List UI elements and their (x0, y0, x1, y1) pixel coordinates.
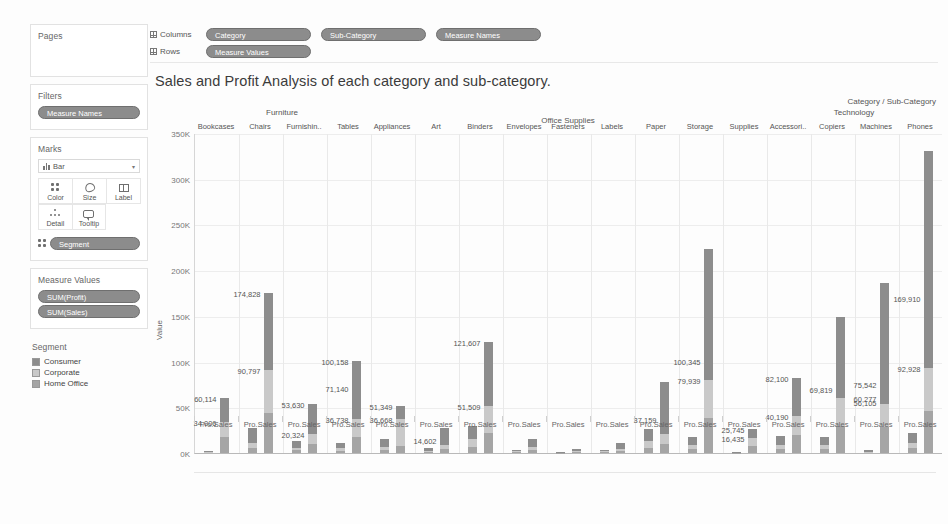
bar-segment-corporate[interactable] (660, 434, 669, 444)
bar-segment-consumer[interactable] (424, 448, 433, 450)
bar-segment-corporate[interactable] (204, 452, 213, 453)
bar-envelopes-sales[interactable] (528, 439, 537, 453)
bar-segment-consumer[interactable] (512, 450, 521, 452)
bar-segment-consumer[interactable] (776, 436, 785, 445)
bar-segment-consumer[interactable] (440, 428, 449, 444)
bar-binders-sales[interactable] (484, 342, 493, 453)
bar-segment-consumer[interactable] (484, 342, 493, 406)
bar-segment-corporate[interactable] (924, 368, 933, 411)
bar-segment-consumer[interactable] (336, 443, 345, 448)
bar-fasteners-sales[interactable] (572, 449, 581, 453)
bar-segment-consumer[interactable] (864, 450, 873, 451)
bar-segment-consumer[interactable] (204, 451, 213, 452)
bar-segment-home[interactable] (776, 449, 785, 453)
bar-chairs-profit[interactable] (248, 428, 257, 453)
bar-segment-consumer[interactable] (644, 429, 653, 441)
bar-fasteners-profit[interactable] (556, 452, 565, 453)
bar-segment-consumer[interactable] (880, 283, 889, 403)
bar-segment-consumer[interactable] (572, 449, 581, 451)
bar-segment-home[interactable] (308, 444, 317, 453)
bar-segment-home[interactable] (468, 447, 477, 453)
bar-segment-consumer[interactable] (352, 361, 361, 419)
bar-accessori--profit[interactable] (776, 436, 785, 453)
bar-art-sales[interactable] (440, 428, 449, 453)
row-pill-measure-values[interactable]: Measure Values (206, 45, 311, 58)
bar-accessori--sales[interactable] (792, 378, 801, 453)
bar-segment-corporate[interactable] (308, 434, 317, 443)
bar-segment-consumer[interactable] (220, 398, 229, 422)
filter-pill-measure-names[interactable]: Measure Names (38, 106, 140, 119)
columns-shelf[interactable]: Columns Category Sub-Category Measure Na… (150, 26, 938, 43)
column-pill-sub-category[interactable]: Sub-Category (321, 28, 426, 41)
marks-detail-button[interactable]: Detail (38, 204, 73, 230)
bar-segment-corporate[interactable] (572, 451, 581, 452)
bar-segment-home[interactable] (484, 433, 493, 453)
bar-envelopes-profit[interactable] (512, 450, 521, 453)
bar-segment-corporate[interactable] (600, 451, 609, 452)
column-pill-category[interactable]: Category (206, 28, 311, 41)
bar-segment-home[interactable] (512, 452, 521, 453)
bar-segment-corporate[interactable] (776, 445, 785, 449)
marks-label-button[interactable]: Label (106, 178, 141, 204)
bar-binders-profit[interactable] (468, 426, 477, 453)
bar-machines-profit[interactable] (864, 450, 873, 453)
bar-segment-consumer[interactable] (292, 441, 301, 447)
bar-segment-home[interactable] (792, 435, 801, 453)
bar-segment-consumer[interactable] (836, 317, 845, 398)
bar-segment-corporate[interactable] (264, 370, 273, 413)
bar-segment-home[interactable] (292, 450, 301, 453)
bar-segment-home[interactable] (572, 452, 581, 453)
bar-segment-consumer[interactable] (600, 450, 609, 452)
bar-segment-consumer[interactable] (924, 151, 933, 368)
bar-chairs-sales[interactable] (264, 293, 273, 453)
bar-segment-consumer[interactable] (688, 437, 697, 445)
bar-segment-consumer[interactable] (792, 378, 801, 416)
bar-segment-home[interactable] (220, 437, 229, 453)
bar-segment-corporate[interactable] (908, 443, 917, 448)
bar-segment-home[interactable] (836, 426, 845, 453)
bar-segment-corporate[interactable] (820, 445, 829, 449)
bar-segment-home[interactable] (528, 450, 537, 453)
bar-art-profit[interactable] (424, 448, 433, 453)
bar-segment-home[interactable] (336, 451, 345, 453)
bar-appliances-sales[interactable] (396, 406, 405, 453)
bar-tables-profit[interactable] (336, 443, 345, 453)
bar-tables-sales[interactable] (352, 361, 361, 453)
bar-segment-home[interactable] (688, 449, 697, 453)
bar-segment-consumer[interactable] (704, 249, 713, 380)
legend-item-home-office[interactable]: Home Office (32, 379, 141, 388)
bar-segment-home[interactable] (616, 451, 625, 453)
bar-segment-corporate[interactable] (292, 448, 301, 451)
measure-pill-sum-profit[interactable]: SUM(Profit) (38, 290, 140, 303)
bar-segment-consumer[interactable] (380, 439, 389, 446)
bar-segment-home[interactable] (440, 449, 449, 453)
rows-shelf[interactable]: Rows Measure Values (150, 43, 938, 60)
bar-phones-sales[interactable] (924, 151, 933, 453)
bar-supplies-profit[interactable] (732, 452, 741, 453)
bar-segment-consumer[interactable] (908, 433, 917, 443)
column-pill-measure-names[interactable]: Measure Names (436, 28, 541, 41)
bar-segment-home[interactable] (248, 448, 257, 453)
bar-storage-profit[interactable] (688, 437, 697, 453)
bar-segment-home[interactable] (204, 452, 213, 453)
bar-segment-consumer[interactable] (748, 429, 757, 438)
bar-segment-consumer[interactable] (396, 406, 405, 419)
bar-paper-profit[interactable] (644, 429, 653, 453)
bar-segment-consumer[interactable] (616, 443, 625, 449)
bar-segment-corporate[interactable] (748, 438, 757, 446)
bar-segment-home[interactable] (600, 452, 609, 453)
bar-segment-corporate[interactable] (424, 451, 433, 452)
bar-segment-home[interactable] (396, 446, 405, 453)
bar-segment-corporate[interactable] (616, 449, 625, 451)
bar-supplies-sales[interactable] (748, 429, 757, 453)
bar-segment-corporate[interactable] (512, 451, 521, 452)
bar-segment-corporate[interactable] (528, 447, 537, 450)
bar-segment-corporate[interactable] (380, 447, 389, 450)
bar-phones-profit[interactable] (908, 433, 917, 453)
bar-segment-corporate[interactable] (688, 445, 697, 449)
bar-segment-corporate[interactable] (644, 441, 653, 447)
marks-color-button[interactable]: Color (38, 178, 73, 204)
bar-segment-corporate[interactable] (336, 448, 345, 451)
marks-pill-segment[interactable]: Segment (50, 237, 140, 250)
bar-segment-home[interactable] (424, 452, 433, 453)
